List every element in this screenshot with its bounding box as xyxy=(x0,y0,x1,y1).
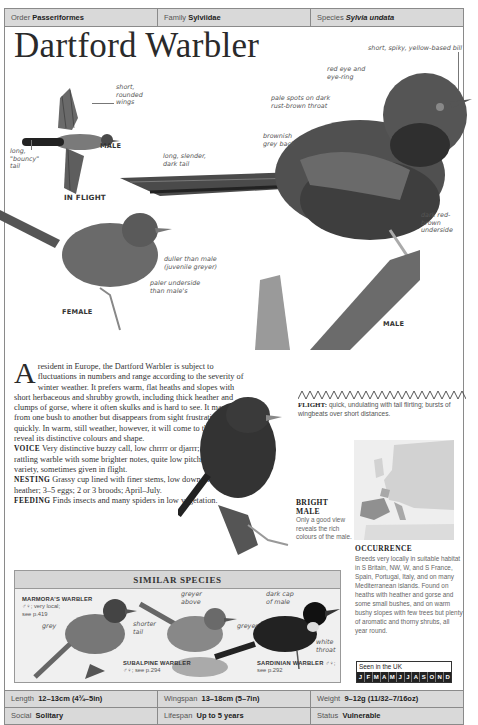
wingspan-cell: Wingspan 13–18cm (5–7in) xyxy=(158,691,311,707)
annotation-back: brownish grey back xyxy=(263,133,295,148)
similar-species-heading: SIMILAR SPECIES xyxy=(15,571,340,589)
species-label: Species xyxy=(317,13,344,22)
marmoras-warbler-caption: MARMORA'S WARBLER ♂♀; very local; see p.… xyxy=(22,596,92,618)
family-label: Family xyxy=(164,13,186,22)
month-aug: A xyxy=(412,672,420,682)
flight-description: FLIGHT: quick, undulating with tail flir… xyxy=(298,401,463,418)
male-label: MALE xyxy=(383,320,404,328)
length-cell: Length 12–13cm (4¾–5in) xyxy=(5,691,158,707)
social-label: Social xyxy=(11,711,31,720)
month-mar: M xyxy=(373,672,381,682)
month-nov: N xyxy=(436,672,444,682)
stats-row-2: Social Solitary Lifespan Up to 5 years S… xyxy=(5,708,463,725)
wingspan-value: 13–18cm (5–7in) xyxy=(202,694,260,703)
drop-cap: A xyxy=(14,361,36,385)
annotation-throat: pale spots on dark rust-brown throat xyxy=(271,95,330,110)
annotation-tail: long, slender, dark tail xyxy=(163,153,206,168)
month-sep: S xyxy=(420,672,428,682)
social-cell: Social Solitary xyxy=(5,708,158,725)
taxonomy-bar: Order Passeriformes Family Sylviidae Spe… xyxy=(4,8,464,27)
annotation-dark-cap: dark cap of male xyxy=(266,591,294,606)
distribution-map xyxy=(354,440,454,540)
flight-pattern-zigzag-icon xyxy=(298,390,466,400)
occurrence-heading: OCCURRENCE xyxy=(355,544,412,553)
annotation-white-throat: white throat xyxy=(316,639,336,654)
sardinian-warbler-name: SARDINIAN WARBLER xyxy=(257,660,324,666)
marmoras-warbler-detail: ♂♀; very local; see p.419 xyxy=(22,603,60,616)
status-value: Vulnerable xyxy=(342,711,380,720)
in-flight-bird-illustration xyxy=(10,78,120,198)
bright-male-heading: BRIGHT MALE xyxy=(296,498,328,516)
family-cell: Family Sylviidae xyxy=(158,9,311,26)
annotation-long-bouncy-tail: long, "bouncy" tail xyxy=(10,148,39,171)
month-feb: F xyxy=(365,672,373,682)
annotation-leader xyxy=(458,52,459,90)
annotation-duller-than-male: duller than male (juvenile greyer) xyxy=(164,256,217,271)
month-dec: D xyxy=(444,672,451,682)
month-jun: J xyxy=(397,672,405,682)
order-label: Order xyxy=(11,13,30,22)
species-value: Sylvia undata xyxy=(346,13,394,22)
wingspan-label: Wingspan xyxy=(164,694,197,703)
family-value: Sylviidae xyxy=(188,13,221,22)
month-oct: O xyxy=(428,672,436,682)
annotation-grey: grey xyxy=(42,623,56,631)
similar-species-panel: SIMILAR SPECIES MARMORA'S WARBLER ♂♀; ve… xyxy=(14,570,341,683)
status-label: Status xyxy=(317,711,338,720)
lifespan-value: Up to 5 years xyxy=(197,711,244,720)
order-value: Passeriformes xyxy=(32,13,84,22)
stats-table: Length 12–13cm (4¾–5in) Wingspan 13–18cm… xyxy=(4,690,464,725)
weight-value: 9–12g (11/32–7/16oz) xyxy=(344,694,418,703)
weight-label: Weight xyxy=(317,694,340,703)
occurrence-text: Breeds very locally in suitable habitat … xyxy=(355,554,463,635)
lifespan-label: Lifespan xyxy=(164,711,192,720)
annotation-greyer: greyer xyxy=(237,623,258,631)
annotation-red-eye: red eye and eye-ring xyxy=(327,66,365,81)
lifespan-cell: Lifespan Up to 5 years xyxy=(158,708,311,725)
month-apr: A xyxy=(381,672,389,682)
order-cell: Order Passeriformes xyxy=(5,9,158,26)
annotation-paler-underside: paler underside than male's xyxy=(150,280,200,295)
month-jul: J xyxy=(405,672,413,682)
flight-label: FLIGHT: xyxy=(298,401,327,409)
nesting-heading: NESTING xyxy=(14,475,50,484)
stats-row-1: Length 12–13cm (4¾–5in) Wingspan 13–18cm… xyxy=(5,691,463,708)
annotation-leader xyxy=(31,140,32,150)
seen-in-uk-calendar: Seen in the UK J F M A M J J A S O N D xyxy=(356,661,452,683)
annotation-greyer-above: greyer above xyxy=(181,591,202,606)
annotation-leader xyxy=(92,103,114,104)
annotation-shorter-tail: shorter tail xyxy=(133,621,156,636)
bright-male-bird-illustration xyxy=(178,395,296,555)
species-cell: Species Sylvia undata xyxy=(311,9,463,26)
social-value: Solitary xyxy=(36,711,64,720)
voice-heading: VOICE xyxy=(14,444,40,453)
bright-male-caption: Only a good view reveals the rich colour… xyxy=(296,516,354,542)
annotation-bill: short, spiky, yellow-based bill xyxy=(368,45,462,53)
europe-map-shape xyxy=(354,440,454,540)
month-may: M xyxy=(389,672,397,682)
subalpine-warbler-caption: SUBALPINE WARBLER ♂♀; see p.294 xyxy=(123,660,191,675)
female-label: FEMALE xyxy=(62,308,93,316)
month-jan: J xyxy=(357,672,365,682)
status-cell: Status Vulnerable xyxy=(311,708,463,725)
subalpine-warbler-detail: ♂♀; see p.294 xyxy=(123,667,160,673)
subalpine-warbler-name: SUBALPINE WARBLER xyxy=(123,660,191,666)
weight-cell: Weight 9–12g (11/32–7/16oz) xyxy=(311,691,463,707)
annotation-underside: dark red- brown underside xyxy=(421,212,453,235)
length-label: Length xyxy=(11,694,34,703)
feeding-heading: FEEDING xyxy=(14,496,50,505)
sardinian-warbler-caption: SARDINIAN WARBLER ♂♀; see p.292 xyxy=(257,660,335,675)
seen-in-uk-title: Seen in the UK xyxy=(357,662,451,672)
month-strip: J F M A M J J A S O N D xyxy=(357,672,451,682)
in-flight-sex-label: MALE xyxy=(100,142,121,150)
length-value: 12–13cm (4¾–5in) xyxy=(38,694,102,703)
marmoras-warbler-name: MARMORA'S WARBLER xyxy=(22,596,92,602)
